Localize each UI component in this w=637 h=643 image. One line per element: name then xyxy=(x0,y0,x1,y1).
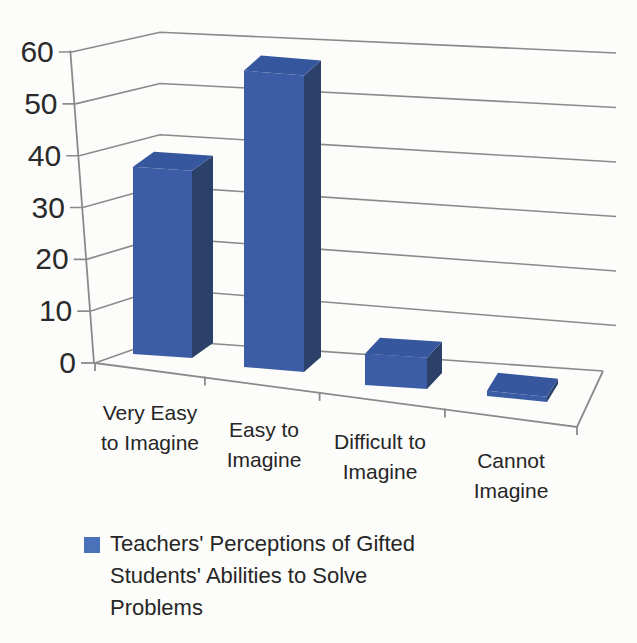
bars xyxy=(133,56,558,402)
category-label-easy-to-imagine-line1: Easy to xyxy=(229,418,299,441)
bar-cannot-imagine xyxy=(487,373,558,402)
y-axis-labels: 0102030405060 xyxy=(20,35,76,379)
bar-difficult-to-imagine xyxy=(365,338,442,389)
category-label-cannot-imagine-line2: Imagine xyxy=(474,479,549,502)
category-label-easy-to-imagine-line2: Imagine xyxy=(227,448,302,471)
bar-front-face-difficult-to-imagine xyxy=(365,354,427,389)
bar-front-face-easy-to-imagine xyxy=(244,71,304,372)
category-label-very-easy-to-imagine-line2: to Imagine xyxy=(101,431,199,454)
y-tick-label-10: 10 xyxy=(39,294,72,327)
y-tick-label-0: 0 xyxy=(59,346,76,379)
chart-figure: 0102030405060 Very Easyto ImagineEasy to… xyxy=(0,0,637,643)
y-tick-label-40: 40 xyxy=(28,139,61,172)
category-label-cannot-imagine-line1: Cannot xyxy=(477,449,545,472)
bar-front-face-very-easy-to-imagine xyxy=(133,167,192,358)
category-label-very-easy-to-imagine-line1: Very Easy xyxy=(103,401,198,424)
gridline-50 xyxy=(63,84,617,108)
gridline-60 xyxy=(59,32,616,53)
category-axis-labels: Very Easyto ImagineEasy toImagineDifficu… xyxy=(101,401,548,502)
bar-very-easy-to-imagine xyxy=(133,152,213,358)
legend-series-label: Teachers' Perceptions of Gifted Students… xyxy=(110,528,446,624)
category-label-difficult-to-imagine-line2: Imagine xyxy=(343,460,418,483)
legend: Teachers' Perceptions of Gifted Students… xyxy=(84,528,446,624)
y-tick-label-50: 50 xyxy=(24,87,57,120)
bar-easy-to-imagine xyxy=(244,56,321,372)
bar-side-face-easy-to-imagine xyxy=(304,61,321,372)
y-tick-label-30: 30 xyxy=(32,191,65,224)
bar-side-face-very-easy-to-imagine xyxy=(192,156,213,358)
y-tick-label-60: 60 xyxy=(20,35,53,68)
legend-swatch xyxy=(84,537,100,553)
y-tick-label-20: 20 xyxy=(35,242,68,275)
category-label-difficult-to-imagine-line1: Difficult to xyxy=(334,430,426,453)
